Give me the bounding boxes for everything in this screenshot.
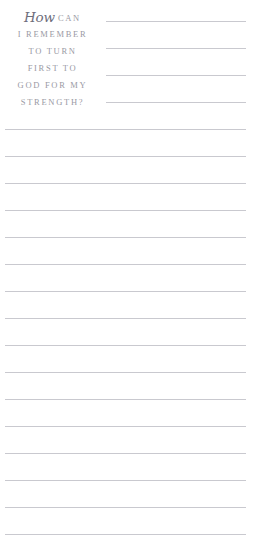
writing-line-short-4[interactable] — [106, 102, 246, 103]
writing-line-3[interactable] — [5, 183, 246, 184]
prompt-question: HowCAN I REMEMBER TO TURN FIRST TO GOD F… — [4, 9, 101, 111]
writing-line-1[interactable] — [5, 129, 246, 130]
writing-line-11[interactable] — [5, 399, 246, 400]
writing-line-7[interactable] — [5, 291, 246, 292]
prompt-line-5: GOD FOR MY — [4, 77, 101, 94]
writing-line-12[interactable] — [5, 426, 246, 427]
journal-page: HowCAN I REMEMBER TO TURN FIRST TO GOD F… — [0, 0, 262, 560]
writing-line-14[interactable] — [5, 480, 246, 481]
writing-line-5[interactable] — [5, 237, 246, 238]
writing-line-6[interactable] — [5, 264, 246, 265]
prompt-script-word: How — [24, 9, 58, 25]
prompt-line-6: STRENGTH? — [4, 94, 101, 111]
writing-line-15[interactable] — [5, 507, 246, 508]
prompt-line-1-caps: CAN — [58, 13, 81, 23]
writing-line-short-2[interactable] — [106, 48, 246, 49]
writing-line-13[interactable] — [5, 453, 246, 454]
writing-line-9[interactable] — [5, 345, 246, 346]
prompt-line-1: HowCAN — [4, 9, 101, 26]
writing-line-4[interactable] — [5, 210, 246, 211]
writing-line-short-1[interactable] — [106, 21, 246, 22]
prompt-line-3: TO TURN — [4, 43, 101, 60]
writing-line-8[interactable] — [5, 318, 246, 319]
prompt-line-4: FIRST TO — [4, 60, 101, 77]
writing-line-short-3[interactable] — [106, 75, 246, 76]
writing-line-16[interactable] — [5, 534, 246, 535]
writing-line-2[interactable] — [5, 156, 246, 157]
writing-line-10[interactable] — [5, 372, 246, 373]
prompt-line-2: I REMEMBER — [4, 26, 101, 43]
